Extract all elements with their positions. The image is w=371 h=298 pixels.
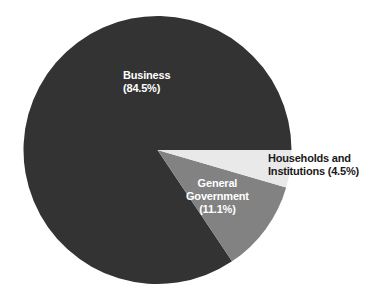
- pie-label-general-government-percent: (11.1%): [186, 203, 249, 216]
- pie-label-business: Business (84.5%): [123, 69, 170, 95]
- pie-chart: Business (84.5%) General Government (11.…: [0, 0, 371, 298]
- pie-label-general-government: General Government (11.1%): [186, 177, 249, 216]
- pie-label-households-line2: Institutions (4.5%): [268, 165, 359, 178]
- pie-label-households-line1: Households and: [268, 152, 359, 165]
- pie-chart-svg: [0, 0, 371, 298]
- pie-label-business-name: Business: [123, 69, 170, 82]
- pie-label-general-government-line2: Government: [186, 190, 249, 203]
- pie-label-general-government-line1: General: [186, 177, 249, 190]
- pie-label-business-percent: (84.5%): [123, 82, 170, 95]
- pie-slices: [24, 16, 292, 284]
- pie-label-households-and-institutions: Households and Institutions (4.5%): [268, 152, 359, 178]
